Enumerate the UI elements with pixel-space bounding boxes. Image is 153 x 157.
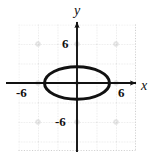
coordinate-plane (0, 0, 153, 157)
x-axis-label: x (141, 79, 147, 93)
y-axis-label: y (74, 4, 80, 18)
graph-figure: y x 6 -6 6 -6 (0, 0, 153, 157)
y-axis-tick-label-negative: -6 (55, 115, 66, 128)
y-axis-tick-label-positive: 6 (62, 37, 69, 50)
x-axis-tick-label-positive: 6 (118, 86, 125, 99)
x-axis-tick-label-negative: -6 (16, 86, 27, 99)
